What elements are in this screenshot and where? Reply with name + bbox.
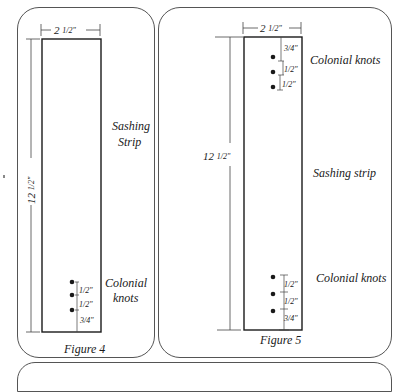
- knot-icon: [271, 292, 276, 297]
- knot-icon: [70, 293, 75, 298]
- knot-icon: [271, 85, 276, 90]
- strip-label: Strip: [118, 135, 141, 149]
- knot-icon: [271, 275, 276, 280]
- knot-icon: [271, 70, 276, 75]
- height-label: 12 1/2": [25, 176, 37, 204]
- spacing-label: 1/2": [79, 300, 93, 309]
- strip-label: Sashing: [112, 119, 150, 133]
- knots-label: Colonial knots: [316, 271, 387, 285]
- knots-label: knots: [113, 291, 139, 305]
- width-label: 2 1/2": [260, 22, 282, 34]
- knots-label: Colonial knots: [310, 53, 381, 67]
- spacing-label: 3/4": [283, 314, 298, 323]
- figure-5-diagram: 2 1/2" 12 1/2" 3/4: [158, 7, 392, 358]
- spacing-label: 1/2": [284, 280, 298, 289]
- knot-icon: [271, 55, 276, 60]
- figure-4-diagram: 2 1/2" 12 1/2" 1/2" 1/2": [17, 7, 155, 358]
- spacing-label: 3/4": [283, 44, 298, 53]
- knot-icon: [271, 309, 276, 314]
- height-dimension: 12 1/2": [25, 39, 40, 332]
- scan-speck: [3, 175, 5, 178]
- height-label: 12 1/2": [203, 150, 231, 162]
- top-colonial-knots: 3/4" 1/2" 1/2": [271, 37, 299, 90]
- spacing-label: 1/2": [79, 286, 93, 295]
- spacing-label: 1/2": [284, 297, 298, 306]
- figure-4-panel: 2 1/2" 12 1/2" 1/2" 1/2": [17, 7, 155, 358]
- width-dimension: 2 1/2": [41, 24, 100, 36]
- strip-label: Sashing strip: [313, 166, 376, 180]
- figure-5-panel: 2 1/2" 12 1/2" 3/4: [158, 7, 392, 358]
- spacing-label: 1/2": [284, 65, 298, 74]
- knot-icon: [70, 308, 75, 313]
- figure-caption: Figure 5: [259, 333, 301, 347]
- colonial-knots: 1/2" 1/2" 3/4": [70, 280, 95, 332]
- width-dimension: 2 1/2": [243, 22, 301, 34]
- spacing-label: 3/4": [79, 316, 94, 325]
- next-figure-panel: [17, 362, 392, 392]
- width-label: 2 1/2": [54, 24, 76, 36]
- figure-caption: Figure 4: [63, 342, 105, 356]
- knots-label: Colonial: [105, 276, 148, 290]
- knot-icon: [70, 280, 75, 285]
- spacing-label: 1/2": [282, 80, 296, 89]
- bottom-colonial-knots: 1/2" 1/2" 3/4": [271, 275, 299, 330]
- height-dimension: 12 1/2": [203, 37, 243, 330]
